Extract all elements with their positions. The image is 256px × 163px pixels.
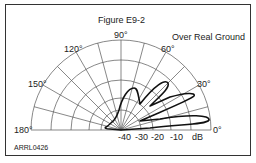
angle-label-180: 180° [14,126,33,135]
db-label-minus10: -10 [170,133,183,142]
db-label-minus40: -40 [118,133,131,142]
figure-subtitle: Over Real Ground [172,33,245,42]
angle-label-0: 0° [213,126,222,135]
angle-label-150: 150° [28,80,47,89]
angle-label-60: 60° [161,45,175,54]
credit-label: ARRL0426 [14,144,48,151]
db-label-minus30: -30 [135,133,148,142]
db-label-unit: dB [192,133,203,142]
angle-label-90: 90° [114,31,128,40]
angle-label-120: 120° [64,45,83,54]
db-label-minus20: -20 [151,133,164,142]
angle-label-30: 30° [197,80,211,89]
figure-title: Figure E9-2 [98,16,145,25]
